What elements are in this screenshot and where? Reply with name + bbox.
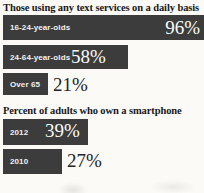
bar-label-2012: 2012 xyxy=(10,128,28,137)
scan-artifact-smudge-right xyxy=(150,180,196,193)
bar-over-65: Over 65 xyxy=(3,73,48,95)
bar-label-over-65: Over 65 xyxy=(10,80,40,89)
infographic-panel: Those using any text services on a daily… xyxy=(0,0,204,193)
bar-value-over-65: 21% xyxy=(53,75,88,94)
bar-value-24-64-year-olds: 58% xyxy=(71,47,106,66)
bar-value-2012: 39% xyxy=(45,121,80,140)
bar-value-16-24-year-olds: 96% xyxy=(165,18,200,37)
bar-label-24-64-year-olds: 24-64-year-olds xyxy=(10,53,70,62)
bar-2010: 2010 xyxy=(3,149,62,174)
section-title-text-services: Those using any text services on a daily… xyxy=(3,2,199,14)
bar-label-2010: 2010 xyxy=(10,157,28,166)
bar-24-64-year-olds: 24-64-year-olds xyxy=(3,45,128,69)
bar-label-16-24-year-olds: 16-24-year-olds xyxy=(10,23,70,32)
section-title-smartphone-ownership: Percent of adults who own a smartphone xyxy=(3,105,182,117)
bar-value-2010: 27% xyxy=(67,151,102,170)
scan-artifact-smudge-left xyxy=(58,182,88,193)
